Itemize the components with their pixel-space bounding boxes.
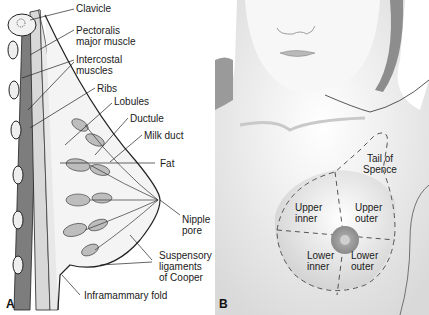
label-upper-outer-quadrant: Upperouter: [355, 202, 382, 224]
label-clavicle: Clavicle: [76, 3, 111, 14]
label-lower-inner-quadrant: Lowerinner: [307, 250, 334, 272]
label-ribs: Ribs: [97, 83, 117, 94]
panel-a-sagittal-section: Clavicle Pectoralismajor muscle Intercos…: [0, 0, 215, 315]
label-pectoralis-major-muscle: Pectoralismajor muscle: [76, 25, 135, 47]
label-ductule: Ductule: [130, 113, 164, 124]
label-intercostal-muscles: Intercostalmuscles: [76, 54, 122, 76]
label-nipple-pore: Nipplepore: [182, 214, 210, 236]
label-suspensory-ligaments-of-cooper: Suspensoryligamentsof Cooper: [159, 250, 212, 283]
label-milk-duct: Milk duct: [144, 130, 183, 141]
label-inframammary-fold: Inframammary fold: [84, 290, 167, 301]
panel-b-breast-quadrants: Tail ofSpence Upperinner Upperouter Lowe…: [215, 0, 429, 315]
label-fat: Fat: [160, 158, 174, 169]
panel-letter-a: A: [6, 297, 15, 311]
label-lobules: Lobules: [114, 96, 149, 107]
label-lower-outer-quadrant: Lowerouter: [351, 250, 378, 272]
label-upper-inner-quadrant: Upperinner: [295, 202, 322, 224]
label-tail-of-spence: Tail ofSpence: [363, 153, 397, 175]
panel-letter-b: B: [219, 297, 228, 311]
